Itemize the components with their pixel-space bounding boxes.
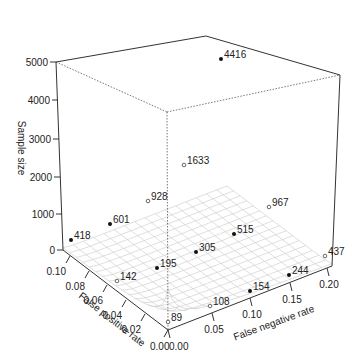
fnr-tick-label: 0.20 (319, 279, 339, 290)
data-point-label: 305 (199, 242, 216, 253)
fpr-tick (122, 300, 126, 307)
mesh-line (207, 194, 312, 271)
mesh-line (145, 218, 250, 294)
fnr-tick (168, 330, 170, 338)
data-point-hidden (115, 279, 119, 283)
fnr-tick-label: 0.00 (169, 341, 189, 352)
data-point-label: 601 (113, 214, 130, 225)
data-point (155, 266, 159, 270)
box-edge-dotted (56, 62, 167, 112)
z-tick-label: 0 (49, 245, 55, 256)
z-tick-label: 1000 (32, 209, 55, 220)
z-tick-label: 3000 (29, 134, 52, 145)
mesh-line (135, 222, 240, 297)
data-point-label: 154 (253, 281, 270, 292)
data-point-hidden (166, 320, 170, 324)
fnr-tick (250, 298, 252, 306)
fpr-tick-label: 0.10 (47, 266, 67, 277)
data-point-label: 928 (151, 191, 168, 202)
plot-area: 500040003000200010000 0.100.080.060.040.… (0, 0, 362, 364)
fnr-tick-label: 0.10 (242, 309, 262, 320)
mesh-line (176, 206, 281, 283)
fpr-tick-label-0: 0.00 (150, 341, 170, 352)
fpr-tick (141, 314, 145, 321)
3d-surface-chart: 500040003000200010000 0.100.080.060.040.… (0, 0, 362, 364)
box-edge (56, 36, 206, 62)
z-tick-label: 5000 (26, 57, 49, 68)
data-point (287, 273, 291, 277)
fpr-tick (85, 271, 89, 278)
data-point-label: 108 (213, 296, 230, 307)
data-point-label: 515 (237, 224, 254, 235)
mesh-line (166, 210, 271, 286)
data-point (69, 238, 73, 242)
data-point-label: 437 (328, 246, 345, 257)
data-point-label: 142 (120, 271, 137, 282)
z-axis-title: Sample size (16, 121, 27, 176)
fnr-tick (212, 313, 214, 321)
fpr-tick (66, 256, 70, 263)
box-edge-dotted (167, 75, 340, 112)
fnr-tick-label: 0.15 (282, 294, 302, 305)
data-point-label: 89 (171, 312, 183, 323)
data-point-hidden (208, 304, 212, 308)
z-tick-label: 2000 (30, 172, 53, 183)
data-point (108, 222, 112, 226)
fnr-tick (290, 283, 292, 291)
data-point-hidden (267, 205, 271, 209)
fpr-tick (103, 285, 107, 292)
fnr-tick-label: 0.05 (204, 324, 224, 335)
fnr-tick (327, 268, 329, 276)
data-point-label: 1633 (187, 155, 210, 166)
surface-mesh (63, 186, 332, 311)
data-point-label: 967 (272, 197, 289, 208)
data-point-hidden (146, 199, 150, 203)
box-edge (332, 75, 340, 266)
data-point (232, 232, 236, 236)
mesh-line (125, 226, 230, 301)
data-point-label: 418 (74, 230, 91, 241)
mesh-line (196, 198, 301, 275)
data-point-hidden (182, 163, 186, 167)
data-point (194, 250, 198, 254)
data-point-label: 195 (160, 258, 177, 269)
data-point (248, 289, 252, 293)
data-point-label: 4416 (224, 49, 247, 60)
data-point-hidden (323, 254, 327, 258)
data-points: 4416163392860141896751530519514289108154… (69, 49, 345, 324)
mesh-line (186, 202, 291, 279)
bounding-box (56, 36, 340, 330)
z-axis-line (56, 62, 63, 250)
fpr-tick (164, 330, 168, 337)
data-point (219, 57, 223, 61)
z-axis-ticks: 500040003000200010000 (26, 57, 63, 256)
data-point-label: 244 (292, 265, 309, 276)
z-tick-label: 4000 (28, 95, 51, 106)
